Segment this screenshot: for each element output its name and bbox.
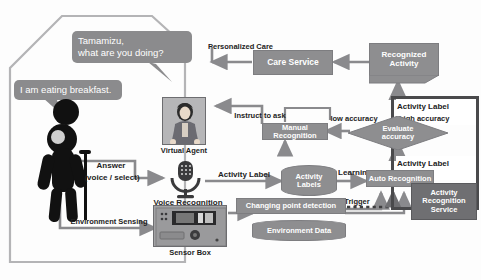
sensor-box-photo bbox=[153, 205, 227, 247]
node-activity-labels[interactable]: Activity Labels bbox=[281, 165, 337, 196]
microphone-icon bbox=[166, 159, 206, 199]
virtual-agent-label: Virtual Agent bbox=[152, 146, 216, 155]
sensor-box-label: Sensor Box bbox=[152, 248, 228, 257]
edge-label-answer-line2: (voice / select) bbox=[81, 172, 143, 183]
speech-answer-text: I am eating breakfast. bbox=[20, 84, 111, 95]
recognized-activity-tail bbox=[369, 75, 443, 85]
bubble-tail-question bbox=[146, 62, 176, 84]
edge-label-answer-line1: Answer bbox=[88, 160, 134, 171]
diagram-canvas: Tamamizu, what are you doing? I am eatin… bbox=[0, 0, 481, 280]
node-environment-data[interactable]: Environment Data bbox=[252, 220, 346, 241]
edge-label-instruct-to-ask: Instruct to ask bbox=[228, 110, 292, 121]
label-activity-label-top: Activity Label bbox=[397, 100, 467, 112]
node-recognized-activity[interactable]: Recognized Activity bbox=[369, 43, 439, 76]
edge-label-activity-label-mid: Activity Label bbox=[208, 169, 280, 180]
recognized-activity-line2: Activity bbox=[390, 60, 419, 68]
node-manual-recognition[interactable]: Manual Recognition bbox=[262, 123, 328, 140]
speech-question-line1: Tamamizu, bbox=[78, 35, 124, 46]
sensor-box-illustration bbox=[154, 206, 227, 247]
evaluate-accuracy-text: Evaluate accuracy bbox=[358, 120, 438, 146]
node-changing-point-detection[interactable]: Changing point detection bbox=[236, 198, 346, 214]
edge-label-environment-sensing: Environment Sensing bbox=[62, 216, 156, 227]
virtual-agent-photo bbox=[162, 97, 206, 145]
activity-labels-line2: Labels bbox=[297, 181, 321, 189]
virtual-agent-illustration bbox=[163, 98, 206, 145]
label-activity-label-right: Activity Label bbox=[397, 157, 467, 169]
service-line3: Service bbox=[431, 206, 458, 214]
speech-bubble-question: Tamamizu, what are you doing? bbox=[72, 31, 192, 63]
node-care-service[interactable]: Care Service bbox=[253, 50, 333, 75]
speech-question-line2: what are you doing? bbox=[78, 47, 164, 58]
evaluate-accuracy-line2: accuracy bbox=[382, 133, 415, 141]
node-activity-recognition-service[interactable]: Activity Recognition Service bbox=[411, 183, 477, 220]
